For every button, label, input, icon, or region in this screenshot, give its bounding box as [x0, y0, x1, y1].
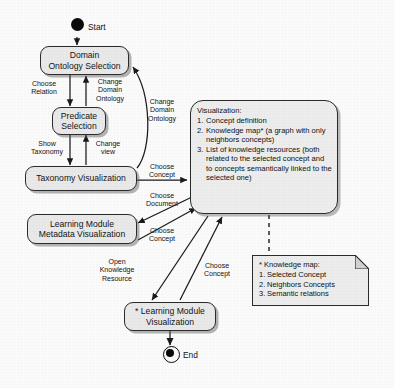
note-item-number: 1. [259, 270, 267, 280]
end-label: End [183, 350, 198, 360]
node-learning-module-visualization-label: * Learning Module Visualization [135, 306, 205, 327]
visualization-item-number: 1. [197, 116, 206, 126]
visualization-item-text: Concept definition [206, 116, 332, 126]
visualization-title: Visualization: [197, 106, 332, 115]
note-title-text: * Knowledge map: [259, 260, 320, 270]
visualization-item: 2. Knowledge map* (a graph with only nei… [197, 126, 332, 145]
visualization-item-number: 2. [197, 126, 206, 145]
edge-label-change-domain-ontology-inner: Change Domain Ontology [89, 78, 131, 103]
edge-label-choose-concept-taxonomy: Choose Concept [142, 163, 182, 180]
edge-label-change-view: Change view [89, 140, 127, 157]
node-predicate-selection[interactable]: Predicate Selection [52, 107, 106, 135]
note-item: 3. Semantic relations [259, 289, 364, 299]
visualization-item-number: 3. [197, 145, 206, 183]
edge-label-choose-document: Choose Document [140, 192, 184, 209]
visualization-item: 3. List of knowledge resources (both rel… [197, 145, 332, 183]
note-item-text: Selected Concept [267, 270, 326, 280]
edge-label-choose-relation: Choose Relation [22, 80, 66, 97]
note-item-text: Semantic relations [267, 289, 329, 299]
node-learning-module-metadata-visualization-label: Learning Module Metadata Visualization [39, 219, 125, 240]
note-folded-corner-icon [355, 255, 369, 269]
edge-label-open-knowledge-resource: Open Knowledge Resource [92, 258, 142, 283]
node-taxonomy-visualization[interactable]: Taxonomy Visualization [25, 166, 137, 191]
edge-module-to-visualization [180, 217, 222, 300]
node-domain-ontology-selection[interactable]: Domain Ontology Selection [40, 46, 129, 75]
visualization-item-text: List of knowledge resources (both relate… [206, 145, 332, 183]
note-item-number: 3. [259, 289, 267, 299]
note-item: 1. Selected Concept [259, 270, 364, 280]
node-learning-module-metadata-visualization[interactable]: Learning Module Metadata Visualization [27, 214, 137, 244]
activity-diagram-canvas: Start End Domain Ontology Selection Pred… [0, 0, 394, 388]
end-node-inner [166, 349, 175, 358]
visualization-item-text: Knowledge map* (a graph with only neighb… [206, 126, 332, 145]
node-visualization-details[interactable]: Visualization: 1. Concept definition 2. … [190, 100, 338, 214]
note-item-number: 2. [259, 280, 267, 290]
node-domain-ontology-selection-label: Domain Ontology Selection [48, 50, 120, 71]
visualization-item: 1. Concept definition [197, 116, 332, 126]
node-learning-module-visualization[interactable]: * Learning Module Visualization [124, 302, 216, 331]
node-taxonomy-visualization-label: Taxonomy Visualization [36, 173, 126, 183]
note-item: 2. Neighbors Concepts [259, 280, 364, 290]
edge-label-choose-concept-metadata: Choose Concept [142, 227, 182, 244]
start-node [71, 18, 84, 31]
edge-label-change-domain-ontology-outer: Change Domain Ontology [140, 98, 184, 123]
end-node [163, 346, 180, 363]
note-body: * Knowledge map: 1. Selected Concept 2. … [252, 255, 369, 306]
node-predicate-selection-label: Predicate Selection [61, 111, 97, 132]
note-title: * Knowledge map: [259, 260, 364, 270]
edge-label-choose-concept-module: Choose Concept [196, 262, 238, 279]
edge-label-show-taxonomy: Show Taxonomy [24, 140, 70, 157]
start-label: Start [88, 22, 106, 32]
note-knowledge-map: * Knowledge map: 1. Selected Concept 2. … [252, 255, 369, 306]
note-item-text: Neighbors Concepts [267, 280, 335, 290]
